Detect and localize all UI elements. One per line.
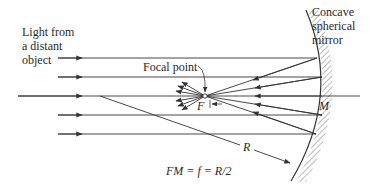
- mirror-label-line3: mirror: [312, 33, 343, 47]
- mirror-label-line2: spherical: [312, 19, 355, 33]
- source-label-line2: a distant: [22, 39, 62, 53]
- focal-point-label: Focal point: [143, 60, 197, 74]
- focal-point-marker: [203, 94, 207, 98]
- focal-point-leader: [198, 66, 205, 92]
- f-label: F: [197, 99, 204, 113]
- equation-label: FM = f = R/2: [166, 164, 232, 178]
- source-label-line3: object: [22, 53, 51, 67]
- r-label: R: [243, 140, 250, 154]
- source-label-line1: Light from: [22, 25, 74, 39]
- radius-line: [100, 96, 240, 145]
- mirror-label-line1: Concave: [312, 5, 354, 19]
- m-label: M: [319, 99, 329, 113]
